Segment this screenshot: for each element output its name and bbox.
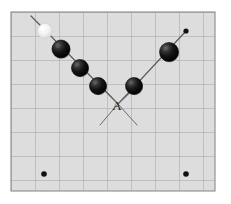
ball-1-white-body bbox=[38, 24, 53, 39]
ball-5-body bbox=[126, 78, 143, 95]
ball-6-body bbox=[160, 43, 179, 62]
ball-1-white bbox=[38, 24, 53, 39]
dot-bottom-right bbox=[183, 171, 189, 177]
figure-labels: A bbox=[112, 98, 122, 113]
figure-canvas: A bbox=[0, 0, 231, 204]
dot-bottom-left bbox=[41, 171, 47, 177]
physics-trajectory-figure: A bbox=[0, 0, 231, 204]
ball-4-body bbox=[90, 78, 107, 95]
ball-3-body bbox=[72, 60, 89, 77]
ball-2-body bbox=[52, 40, 70, 58]
dot-line-end bbox=[183, 28, 188, 33]
angle-label-a: A bbox=[112, 98, 122, 113]
